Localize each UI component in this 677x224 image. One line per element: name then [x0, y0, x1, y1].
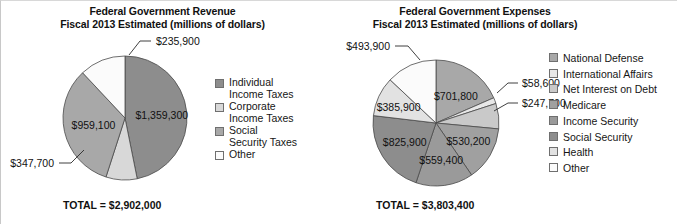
legend-swatch-icon [549, 53, 558, 62]
legend-item[interactable]: Other [549, 161, 657, 175]
legend-revenue: Individual Income TaxesCorporate Income … [215, 77, 297, 161]
legend-item[interactable]: Individual Income Taxes [215, 77, 297, 100]
chart-panel-revenue: Federal Government Revenue Fiscal 2013 E… [1, 1, 338, 224]
chart-title-revenue-line1: Federal Government Revenue [0, 5, 331, 18]
slice-value-label: $701,800 [434, 90, 478, 102]
total-expenses: TOTAL = $3,803,400 [376, 199, 474, 211]
total-revenue: TOTAL = $2,902,000 [63, 199, 161, 211]
chart-panel-expenses: Federal Government Expenses Fiscal 2013 … [338, 1, 677, 224]
legend-item[interactable]: Medicare [549, 98, 657, 112]
chart-title-revenue-line2: Fiscal 2013 Estimated (millions of dolla… [0, 18, 331, 31]
legend-item[interactable]: Social Security [549, 130, 657, 144]
legend-item[interactable]: Net Interest on Debt [549, 82, 657, 96]
legend-item[interactable]: Other [215, 149, 297, 161]
legend-expenses: National DefenseInternational AffairsNet… [549, 51, 657, 175]
slice-value-label: $347,700 [10, 157, 54, 169]
chart-title-expenses: Federal Government Expenses Fiscal 2013 … [305, 5, 645, 31]
legend-label: International Affairs [563, 67, 653, 81]
chart-title-revenue: Federal Government Revenue Fiscal 2013 E… [0, 5, 331, 31]
slice-value-label: $959,100 [72, 119, 116, 131]
callout-leader-line [129, 41, 151, 55]
slice-value-label: $493,900 [346, 40, 390, 52]
legend-label: Individual Income Taxes [229, 77, 294, 100]
legend-item[interactable]: Health [549, 145, 657, 159]
slice-value-label: $1,359,300 [136, 109, 189, 121]
legend-item[interactable]: Corporate Income Taxes [215, 101, 297, 124]
legend-swatch-icon [549, 163, 558, 172]
slice-value-label: $559,400 [419, 154, 463, 166]
legend-swatch-icon [549, 69, 558, 78]
slice-value-label: $825,900 [383, 136, 427, 148]
legend-label: Other [229, 149, 255, 161]
legend-item[interactable]: National Defense [549, 51, 657, 65]
legend-item[interactable]: Social Security Taxes [215, 125, 297, 148]
legend-label: National Defense [563, 51, 644, 65]
callout-leader-line [395, 46, 420, 60]
chart-title-expenses-line2: Fiscal 2013 Estimated (millions of dolla… [305, 18, 645, 31]
legend-swatch-icon [549, 132, 558, 141]
figure-two-pie-charts: Federal Government Revenue Fiscal 2013 E… [0, 0, 677, 224]
legend-swatch-icon [549, 116, 558, 125]
legend-label: Social Security [563, 130, 632, 144]
callout-leader-line [497, 83, 518, 93]
slice-value-label: $235,900 [156, 35, 200, 47]
legend-item[interactable]: International Affairs [549, 67, 657, 81]
legend-swatch-icon [215, 127, 224, 136]
legend-item[interactable]: Income Security [549, 114, 657, 128]
legend-swatch-icon [549, 147, 558, 156]
legend-label: Medicare [563, 98, 606, 112]
legend-label: Net Interest on Debt [563, 82, 657, 96]
legend-label: Health [563, 145, 593, 159]
legend-label: Social Security Taxes [229, 125, 297, 148]
legend-label: Corporate Income Taxes [229, 101, 294, 124]
legend-swatch-icon [215, 103, 224, 112]
legend-label: Other [563, 161, 589, 175]
slice-value-label: $530,200 [447, 135, 491, 147]
legend-swatch-icon [549, 84, 558, 93]
chart-title-expenses-line1: Federal Government Expenses [305, 5, 645, 18]
legend-swatch-icon [549, 100, 558, 109]
legend-label: Income Security [563, 114, 638, 128]
legend-swatch-icon [215, 151, 224, 160]
legend-swatch-icon [215, 79, 224, 88]
slice-value-label: $385,900 [377, 101, 421, 113]
